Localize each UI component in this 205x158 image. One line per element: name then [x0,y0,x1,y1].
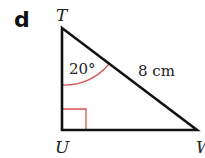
angle-label: 20° [69,60,96,78]
vertex-label-w: W [196,137,205,157]
triangle [62,28,197,130]
right-angle-mark [62,109,86,130]
vertex-label-u: U [55,137,70,157]
part-label: d [14,7,30,32]
vertex-label-t: T [56,5,69,25]
side-length-label: 8 cm [138,62,175,80]
triangle-diagram: d T U W 20° 8 cm [0,0,205,158]
